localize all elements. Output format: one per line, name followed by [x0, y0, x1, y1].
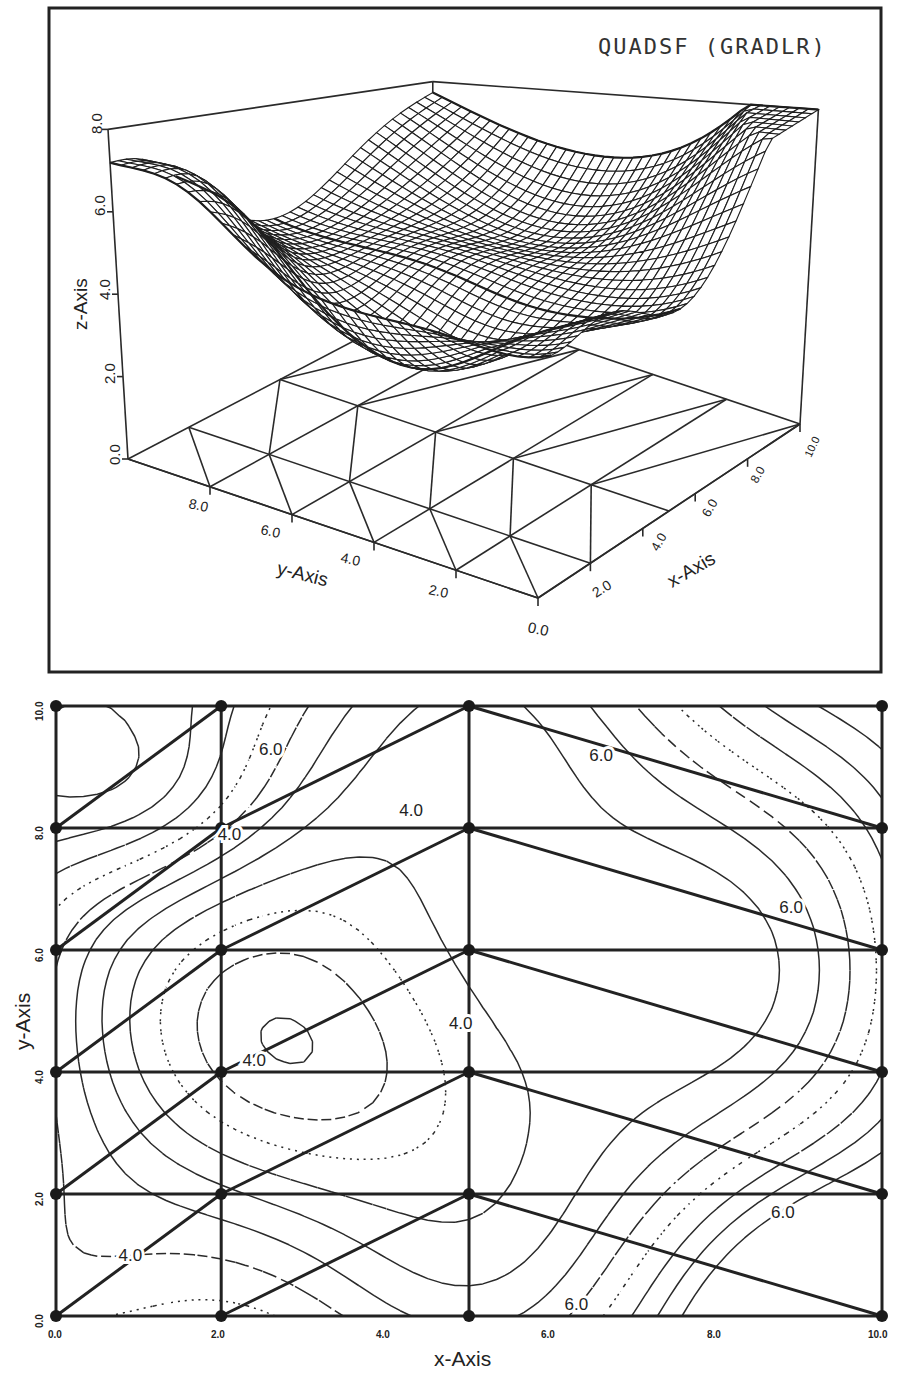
mesh-node — [463, 944, 475, 956]
mesh-diagonal — [56, 950, 221, 1072]
mesh-node — [215, 1066, 227, 1078]
x-tick-label: 4.0 — [376, 1329, 390, 1340]
z-tick-label: 0.0 — [106, 444, 123, 465]
mesh-diagonal — [221, 1194, 469, 1316]
y-tick-label: 6.0 — [34, 948, 45, 962]
y-tick-label: 8.0 — [34, 826, 45, 840]
base-edge — [430, 432, 436, 509]
contour-label: 4.0 — [218, 825, 242, 844]
mesh-node — [876, 1066, 888, 1078]
mesh-node — [50, 1188, 62, 1200]
x-tick-label: 8.0 — [747, 464, 768, 486]
triangulation-mesh — [56, 706, 882, 1316]
surface-plot-panel: QUADSF (GRADLR) 0.0 2.0 4.0 6.0 8.0 z-Ax… — [49, 8, 881, 672]
y-axis-label: y-Axis — [275, 558, 330, 591]
base-edge — [430, 509, 456, 570]
contour-label: 4.0 — [399, 801, 423, 820]
x-axis-label: x-Axis — [664, 547, 719, 591]
base-edge — [510, 458, 513, 536]
base-edge — [800, 110, 818, 424]
mesh-node — [50, 944, 62, 956]
x-tick-label: 8.0 — [707, 1329, 721, 1340]
x-tick-label: 2.0 — [211, 1329, 225, 1340]
z-axis: 0.0 2.0 4.0 6.0 8.0 z-Axis — [70, 113, 123, 465]
mesh-node — [463, 1188, 475, 1200]
mesh-node — [876, 822, 888, 834]
mesh-diagonal — [56, 828, 221, 950]
base-edge — [269, 380, 280, 455]
contour-label: 6.0 — [771, 1203, 795, 1222]
mesh-node — [876, 944, 888, 956]
mesh-node — [463, 822, 475, 834]
y-tick-label: 10.0 — [34, 701, 45, 721]
y-tick-label: 2.0 — [427, 581, 450, 601]
x-axis: 2.0 4.0 6.0 8.0 10.0 x-Axis — [589, 434, 822, 600]
mesh-diagonal — [221, 706, 469, 828]
mesh-node — [50, 700, 62, 712]
contour-y-axis: 0.0 2.0 4.0 6.0 8.0 10.0 y-Axis — [11, 701, 45, 1328]
mesh-node — [463, 1066, 475, 1078]
y-tick-label: 8.0 — [187, 495, 210, 515]
mesh-node — [463, 700, 475, 712]
y-tick-label: 0.0 — [526, 618, 550, 639]
y-tick-label: 0.0 — [34, 1314, 45, 1328]
x-tick-label: 4.0 — [648, 530, 670, 553]
mesh-node — [215, 1188, 227, 1200]
mesh-node — [463, 1310, 475, 1322]
x-tick-label: 6.0 — [699, 496, 721, 519]
mesh-node — [215, 700, 227, 712]
mesh-node — [50, 1066, 62, 1078]
base-edge — [436, 374, 653, 432]
y-axis: 8.0 6.0 4.0 2.0 0.0 y-Axis — [187, 495, 550, 639]
base-edge — [590, 485, 591, 564]
chart-title: QUADSF (GRADLR) — [598, 34, 827, 59]
contour-label: 6.0 — [589, 746, 613, 765]
contour-line — [76, 706, 820, 1316]
z-tick-label: 4.0 — [96, 279, 113, 300]
z-tick-label: 8.0 — [88, 113, 105, 134]
mesh-node — [876, 1310, 888, 1322]
wireframe-surface — [110, 93, 818, 372]
contour-x-axis: 0.0 2.0 4.0 6.0 8.0 10.0 x-Axis — [48, 1329, 888, 1370]
mesh-node — [50, 1310, 62, 1322]
contour-label: 4.0 — [242, 1051, 266, 1070]
base-edge — [510, 536, 538, 598]
contour-label: 6.0 — [259, 740, 283, 759]
mesh-diagonal — [221, 828, 469, 950]
y-tick-label: 4.0 — [34, 1070, 45, 1084]
x-tick-label: 10.0 — [868, 1329, 888, 1340]
mesh-node — [215, 944, 227, 956]
base-edge — [189, 427, 210, 487]
contour-label: 4.0 — [449, 1014, 473, 1033]
z-axis-label: z-Axis — [70, 278, 91, 330]
base-edge — [269, 454, 292, 514]
contour-plot-panel: 6.04.04.06.06.04.04.06.04.06.0 0.0 2.0 4… — [11, 700, 888, 1370]
y-tick-label: 4.0 — [339, 549, 362, 569]
contour-label: 4.0 — [119, 1246, 143, 1265]
x-tick-label: 0.0 — [48, 1329, 62, 1340]
mesh-diagonal — [469, 1072, 882, 1194]
base-edge — [349, 482, 374, 543]
z-tick-label: 6.0 — [91, 195, 108, 216]
base-edge — [108, 82, 433, 130]
base-edge — [513, 399, 726, 458]
y-tick-label: 2.0 — [34, 1192, 45, 1206]
mesh-diagonal — [221, 1072, 469, 1194]
mesh-diagonal — [56, 1072, 221, 1194]
base-edge — [591, 424, 800, 485]
x-tick-label: 10.0 — [802, 434, 822, 458]
x-tick-label: 6.0 — [541, 1329, 555, 1340]
mesh-node — [215, 1310, 227, 1322]
mesh-node — [876, 1188, 888, 1200]
figure: QUADSF (GRADLR) 0.0 2.0 4.0 6.0 8.0 z-Ax… — [0, 0, 910, 1375]
mesh-node — [876, 700, 888, 712]
mesh-diagonal — [469, 706, 882, 828]
z-tick-label: 2.0 — [101, 363, 118, 384]
x-axis-label: x-Axis — [434, 1347, 491, 1370]
contour-line — [160, 910, 445, 1159]
y-axis-label: y-Axis — [11, 993, 34, 1050]
base-edge — [349, 406, 357, 482]
mesh-diagonal — [56, 706, 221, 828]
x-tick-label: 2.0 — [589, 577, 614, 601]
contour-label: 6.0 — [779, 898, 803, 917]
